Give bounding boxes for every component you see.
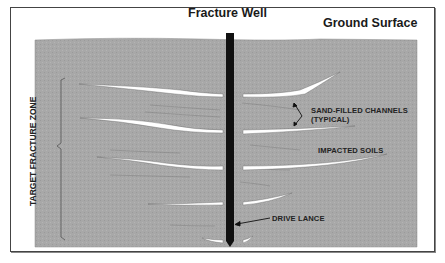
fracture-well-title: Fracture Well [188,6,267,20]
fracture-well [226,33,234,241]
sand-channels-typical-label: (TYPICAL) [311,115,349,124]
target-fracture-zone-label: TARGET FRACTURE ZONE [28,97,38,206]
impacted-soils-label: IMPACTED SOILS [318,146,383,155]
drive-lance-label: DRIVE LANCE [272,214,325,223]
cross-section-diagram [0,0,445,263]
sand-channels-label: SAND-FILLED CHANNELS [311,106,408,115]
ground-surface-title: Ground Surface [323,16,417,30]
